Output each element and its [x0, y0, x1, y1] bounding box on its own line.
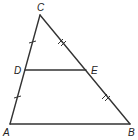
label-a: A [2, 127, 10, 138]
triangle-diagram: C D E A B [0, 0, 138, 140]
label-e: E [91, 65, 98, 76]
label-c: C [37, 2, 45, 13]
label-d: D [14, 65, 21, 76]
double-tick-mark-eb [102, 94, 110, 101]
label-b: B [128, 127, 135, 138]
